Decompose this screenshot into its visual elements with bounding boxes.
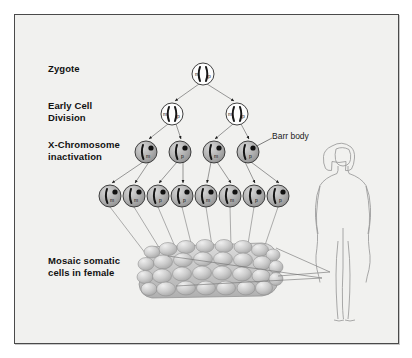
cell-somatic-2: m	[123, 185, 145, 207]
svg-text:p: p	[208, 73, 211, 79]
cell-somatic-6: m	[219, 185, 241, 207]
female-body-outline	[315, 143, 370, 321]
svg-text:p: p	[279, 197, 282, 203]
barr-body-dot	[280, 189, 285, 194]
cell-somatic-7: p	[243, 185, 265, 207]
svg-text:m: m	[110, 197, 114, 203]
svg-text:m: m	[214, 153, 218, 159]
barr-body-dot	[182, 145, 187, 150]
cell-somatic-5: m	[195, 185, 217, 207]
barr-body-dot	[112, 189, 117, 194]
label-barr-body: Barr body	[272, 131, 309, 141]
figure-container: m p m p m p m p	[0, 0, 412, 358]
barr-body-dot	[148, 145, 153, 150]
svg-text:p: p	[177, 113, 180, 119]
svg-text:m: m	[163, 111, 167, 117]
svg-text:p: p	[242, 113, 245, 119]
svg-text:p: p	[183, 197, 186, 203]
cell-somatic-1: m	[99, 185, 121, 207]
cell-zygote: m p	[192, 63, 214, 85]
svg-text:m: m	[228, 111, 232, 117]
svg-text:p: p	[249, 153, 252, 159]
cell-inactivation-1: m	[135, 141, 157, 163]
cell-somatic-3: p	[147, 185, 169, 207]
cell-inactivation-3: m	[203, 141, 225, 163]
cell-somatic-4: p	[171, 185, 193, 207]
cell-inactivation-2: p	[169, 141, 191, 163]
barr-body-dot	[208, 189, 213, 194]
svg-text:m: m	[195, 71, 199, 77]
diagram-artwork: m p m p m p m p	[0, 0, 412, 358]
lineage-connectors	[112, 84, 279, 183]
cell-inactivation-4: p	[237, 141, 259, 163]
barr-body-dot	[184, 189, 189, 194]
barr-body-dot	[232, 189, 237, 194]
cell-somatic-8: p	[267, 185, 289, 207]
label-early-cell-division: Early Cell Division	[48, 100, 92, 123]
label-zygote: Zygote	[48, 63, 80, 75]
svg-text:p: p	[255, 197, 258, 203]
svg-text:m: m	[134, 197, 138, 203]
cell-early-division-2: m p	[226, 103, 248, 125]
barr-body-dot	[216, 145, 221, 150]
svg-text:m: m	[146, 153, 150, 159]
svg-text:m: m	[206, 197, 210, 203]
svg-text:p: p	[181, 153, 184, 159]
barr-body-dot	[250, 145, 255, 150]
barr-body-dot	[136, 189, 141, 194]
svg-text:m: m	[230, 197, 234, 203]
barr-body-dot	[256, 189, 261, 194]
label-mosaic-somatic-cells: Mosaic somatic cells in female	[48, 255, 120, 278]
label-x-chromosome-inactivation: X-Chromosome inactivation	[48, 139, 120, 162]
cell-early-division-1: m p	[161, 103, 183, 125]
mosaic-tissue-patch	[137, 240, 283, 299]
barr-body-dot	[160, 189, 165, 194]
svg-text:p: p	[159, 197, 162, 203]
